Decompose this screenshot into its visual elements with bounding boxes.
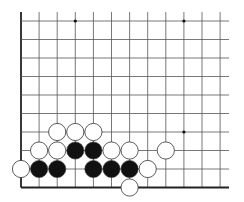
white-stone[interactable] bbox=[12, 160, 29, 177]
white-stone[interactable] bbox=[121, 142, 138, 159]
white-stone[interactable] bbox=[49, 142, 66, 159]
star-point-icon bbox=[182, 19, 185, 22]
white-stone[interactable] bbox=[139, 160, 156, 177]
black-stone[interactable] bbox=[49, 160, 66, 177]
black-stone[interactable] bbox=[67, 142, 84, 159]
white-stone[interactable] bbox=[49, 123, 66, 140]
white-stone[interactable] bbox=[103, 142, 120, 159]
white-stone[interactable] bbox=[67, 123, 84, 140]
black-stone[interactable] bbox=[30, 160, 47, 177]
white-stone[interactable] bbox=[30, 142, 47, 159]
board-grid bbox=[21, 12, 229, 188]
black-stone[interactable] bbox=[121, 160, 138, 177]
black-stone[interactable] bbox=[85, 142, 102, 159]
star-point-icon bbox=[182, 130, 185, 133]
white-stone[interactable] bbox=[85, 123, 102, 140]
black-stone[interactable] bbox=[85, 160, 102, 177]
white-stone[interactable] bbox=[157, 142, 174, 159]
star-point-icon bbox=[74, 19, 77, 22]
go-board[interactable] bbox=[0, 0, 244, 202]
black-stone[interactable] bbox=[103, 160, 120, 177]
white-stone[interactable] bbox=[121, 179, 138, 196]
